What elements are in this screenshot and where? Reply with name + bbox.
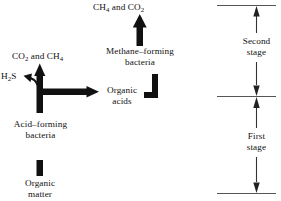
- label-second-stage: Second stage: [231, 36, 281, 57]
- methane-products-arrowhead: [133, 14, 147, 28]
- acid-to-organic-acids-arrowhead: [87, 86, 100, 98]
- label-left-products: CO2 and CH4: [12, 51, 63, 63]
- first-stage-down-arrowhead: [253, 183, 259, 194]
- methane-products-arrow-shaft: [137, 25, 144, 46]
- label-first-stage: First stage: [231, 131, 281, 152]
- label-organic-acids: Organic acids: [101, 85, 143, 106]
- acid-stage-up-arrowhead: [34, 64, 45, 77]
- acid-to-organic-acids-shaft: [39, 89, 89, 96]
- second-stage-up-arrowhead: [253, 6, 259, 17]
- anaerobic-digestion-diagram: CH4 and CO2 CO2 and CH4 H2S Methane–form…: [0, 0, 281, 201]
- organic-matter-stem: [37, 160, 44, 176]
- label-methane-forming-bacteria: Methane–forming bacteria: [92, 46, 188, 67]
- label-organic-matter: Organic matter: [8, 178, 72, 199]
- h2s-arrowhead: [24, 74, 32, 83]
- second-stage-down-arrowhead: [253, 86, 259, 97]
- organic-acids-elbow-horizontal: [144, 92, 158, 98]
- label-hydrogen-sulfide: H2S: [1, 71, 16, 83]
- label-top-products: CH4 and CO2: [93, 2, 144, 14]
- label-acid-forming-bacteria: Acid–forming bacteria: [0, 119, 81, 140]
- first-stage-up-arrowhead: [253, 97, 259, 108]
